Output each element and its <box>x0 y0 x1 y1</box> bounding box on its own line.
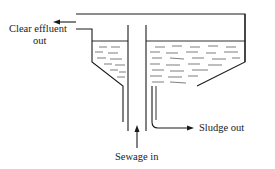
sludge-arrowhead <box>187 126 194 131</box>
tank-left-wall <box>76 29 123 122</box>
sewage-label: Sewage in <box>115 151 158 162</box>
effluent-pipe-top <box>76 14 245 62</box>
sludge-pipe <box>152 86 190 128</box>
sewage-arrowhead <box>135 125 140 132</box>
tank-right-wall <box>197 14 245 86</box>
effluent-label-line1: Clear effluent <box>9 23 67 34</box>
liquid-hatching <box>95 46 240 83</box>
sludge-label: Sludge out <box>199 122 244 133</box>
effluent-label-line2: out <box>33 35 46 46</box>
